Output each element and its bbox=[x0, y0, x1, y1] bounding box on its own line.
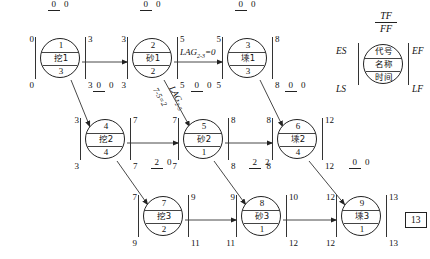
node-es: 0 bbox=[19, 34, 34, 44]
network-diagram-canvas: 001挖130303002砂123535003塖135858004挖243737… bbox=[0, 0, 430, 259]
right-time-bar bbox=[386, 195, 387, 237]
node-name: 挖2 bbox=[86, 133, 125, 146]
node-circle: 7挖32 bbox=[143, 196, 183, 236]
node-circle: 4挖24 bbox=[85, 119, 125, 159]
node-ef: 12 bbox=[325, 115, 340, 125]
tf-value: 0 bbox=[191, 80, 204, 92]
ff-value: 2 bbox=[261, 157, 274, 168]
ff-value: 0 bbox=[247, 0, 260, 10]
node-ls: 11 bbox=[220, 238, 235, 248]
tf-ff-fraction: 00 bbox=[188, 80, 218, 92]
node-name: 挖1 bbox=[41, 52, 80, 65]
node-id: 6 bbox=[278, 120, 317, 133]
left-time-bar bbox=[222, 37, 223, 79]
node-id: 3 bbox=[228, 39, 267, 52]
node-duration: 2 bbox=[144, 223, 183, 236]
node-name: 塖2 bbox=[278, 133, 317, 146]
node-ls: 0 bbox=[19, 80, 34, 90]
ff-value: 0 bbox=[60, 0, 73, 10]
node-ef: 13 bbox=[389, 192, 404, 202]
node-duration: 2 bbox=[133, 65, 172, 78]
right-time-bar bbox=[85, 37, 86, 79]
left-time-bar bbox=[127, 37, 128, 79]
node-lf: 12 bbox=[289, 238, 304, 248]
left-time-bar bbox=[80, 118, 81, 160]
tf-value: 0 bbox=[93, 80, 106, 92]
node-ef: 5 bbox=[180, 34, 195, 44]
legend-name-label: 名称 bbox=[364, 58, 403, 71]
node-ef: 10 bbox=[289, 192, 304, 202]
node-duration: 3 bbox=[228, 65, 267, 78]
tf-value: 0 bbox=[235, 0, 248, 11]
node-duration: 1 bbox=[242, 223, 281, 236]
node-id: 9 bbox=[342, 197, 381, 210]
right-time-bar bbox=[272, 37, 273, 79]
node-lf: 12 bbox=[325, 161, 340, 171]
total-duration-box: 13 bbox=[405, 212, 427, 228]
activity-node-8: 228砂319101112 bbox=[218, 183, 304, 257]
node-es: 9 bbox=[220, 192, 235, 202]
node-lf: 7 bbox=[133, 161, 148, 171]
tf-ff-fraction: 20 bbox=[148, 157, 178, 169]
left-time-bar bbox=[272, 118, 273, 160]
node-lf: 8 bbox=[231, 161, 246, 171]
right-time-bar bbox=[130, 118, 131, 160]
node-es: 7 bbox=[162, 115, 177, 125]
node-circle: 3塖13 bbox=[227, 38, 267, 78]
tf-value: 2 bbox=[151, 157, 164, 169]
left-time-bar bbox=[178, 118, 179, 160]
legend-tf: TF bbox=[375, 10, 397, 23]
node-circle: 1挖13 bbox=[40, 38, 80, 78]
right-time-bar bbox=[322, 118, 323, 160]
tf-value: 2 bbox=[249, 157, 262, 169]
right-time-bar bbox=[228, 118, 229, 160]
legend-es-label: ES bbox=[336, 46, 347, 56]
node-duration: 4 bbox=[278, 146, 317, 159]
tf-ff-fraction: 00 bbox=[90, 80, 120, 92]
node-id: 5 bbox=[184, 120, 223, 133]
node-id: 1 bbox=[41, 39, 80, 52]
ff-value: 0 bbox=[105, 80, 118, 91]
node-ef: 9 bbox=[191, 192, 206, 202]
right-time-bar bbox=[286, 195, 287, 237]
node-lf: 11 bbox=[191, 238, 206, 248]
node-es: 8 bbox=[256, 115, 271, 125]
legend-tf-ff: TF FF bbox=[368, 10, 404, 35]
node-es: 12 bbox=[320, 192, 335, 202]
node-lf: 13 bbox=[389, 238, 404, 248]
legend-right-bar bbox=[408, 43, 409, 85]
node-es: 7 bbox=[122, 192, 137, 202]
tf-value: 0 bbox=[285, 80, 298, 92]
node-circle: 5砂21 bbox=[183, 119, 223, 159]
tf-ff-fraction: 00 bbox=[282, 80, 312, 92]
node-duration: 3 bbox=[41, 65, 80, 78]
ff-value: 0 bbox=[361, 157, 374, 168]
node-ls: 12 bbox=[320, 238, 335, 248]
left-time-bar bbox=[236, 195, 237, 237]
left-time-bar bbox=[138, 195, 139, 237]
lag-2-3-label: LAG2-3=0 bbox=[180, 47, 216, 59]
node-ef: 3 bbox=[88, 34, 103, 44]
node-name: 塖1 bbox=[228, 52, 267, 65]
legend-circle: 代号 名称 时间 bbox=[363, 44, 403, 84]
node-id: 8 bbox=[242, 197, 281, 210]
activity-node-4: 004挖243737 bbox=[62, 106, 148, 180]
left-time-bar bbox=[35, 37, 36, 79]
legend-ff: FF bbox=[375, 23, 397, 35]
node-circle: 8砂31 bbox=[241, 196, 281, 236]
node-ef: 8 bbox=[275, 34, 290, 44]
node-ef: 7 bbox=[133, 115, 148, 125]
legend-left-bar bbox=[358, 43, 359, 85]
right-time-bar bbox=[188, 195, 189, 237]
node-id: 2 bbox=[133, 39, 172, 52]
activity-node-7: 207挖3279911 bbox=[120, 183, 206, 257]
tf-value: 0 bbox=[140, 0, 153, 11]
ff-value: 0 bbox=[297, 80, 310, 91]
tf-ff-fraction: 22 bbox=[246, 157, 276, 169]
node-ef: 8 bbox=[231, 115, 246, 125]
activity-node-9: 009塖3112131213 bbox=[318, 183, 404, 257]
node-circle: 2砂12 bbox=[132, 38, 172, 78]
ff-value: 0 bbox=[163, 157, 176, 168]
node-ls: 3 bbox=[64, 161, 79, 171]
legend-ls-label: LS bbox=[336, 84, 346, 94]
